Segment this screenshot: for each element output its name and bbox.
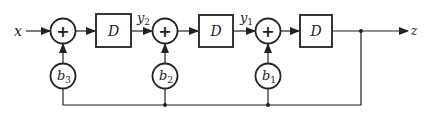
junction-dot [266, 103, 270, 107]
coefficient-b1: b1 [256, 64, 281, 89]
input-label-x: x [14, 23, 22, 39]
signal-label-y2: y2 [136, 10, 150, 27]
coefficient-b3: b3 [51, 64, 76, 89]
plus-icon: + [56, 22, 69, 41]
delay-block-2: D [199, 15, 233, 47]
coefficient-b2: b2 [153, 64, 178, 89]
plus-icon: + [261, 22, 274, 41]
signal-label-y1: y1 [239, 10, 253, 27]
block-diagram: x + D y2 + D y1 + D z [0, 0, 426, 113]
junction-dot [163, 103, 167, 107]
delay-label: D [309, 23, 321, 39]
adder-2: + [153, 19, 178, 44]
plus-icon: + [158, 22, 171, 41]
output-label-z: z [410, 24, 418, 38]
delay-block-3: D [300, 15, 332, 47]
delay-block-1: D [96, 14, 131, 47]
adder-3: + [256, 19, 281, 44]
delay-label: D [209, 23, 221, 39]
delay-label: D [107, 23, 119, 39]
adder-1: + [51, 19, 76, 44]
